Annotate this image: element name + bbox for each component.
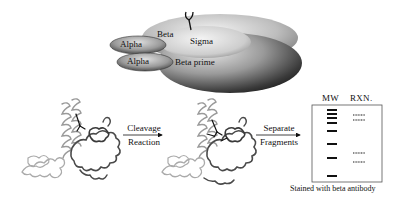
step-2-label-bottom: Fragments: [251, 137, 307, 147]
beta-prime-label: Beta prime: [175, 57, 215, 67]
gel-frame: [312, 105, 382, 182]
protein-structure-cleaved: [162, 99, 256, 184]
lane-label-rxn: RXN.: [350, 93, 372, 103]
gel-caption: Stained with beta antibody: [290, 184, 376, 193]
step-1-label-top: Cleavage: [116, 123, 172, 133]
step-2-label-top: Separate: [251, 123, 307, 133]
alpha-label-1: Alpha: [120, 39, 142, 49]
rna-polymerase-diagram: [0, 0, 403, 203]
protein-structure-intact: [22, 99, 120, 179]
step-1-label-bottom: Reaction: [116, 137, 172, 147]
lane-label-mw: MW: [322, 93, 339, 103]
beta-label: Beta: [157, 29, 174, 39]
sigma-label: Sigma: [190, 36, 213, 46]
alpha-label-2: Alpha: [127, 56, 149, 66]
